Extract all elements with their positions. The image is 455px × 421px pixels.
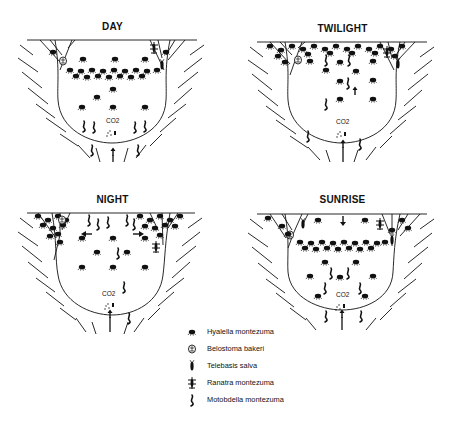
panel-twilight: TWILIGHT CO2	[230, 0, 455, 200]
legend-label: Telebasis salva	[207, 361, 257, 370]
legend-item: Belostoma bakeri	[185, 340, 385, 357]
legend-label: Belostoma bakeri	[207, 344, 264, 353]
panel-day: DAY CO2	[0, 0, 225, 200]
damselfly-larva-icon	[185, 359, 199, 373]
legend-label: Ranatra montezuma	[207, 378, 274, 387]
pond-diagram-sunrise	[230, 190, 455, 330]
water-bug-icon	[185, 342, 199, 356]
amphipod-icon	[185, 325, 199, 339]
co2-label: CO2	[336, 118, 349, 125]
legend-label: Motobdella montezuma	[207, 395, 284, 404]
pond-diagram-twilight	[230, 0, 455, 200]
legend-item: Ranatra montezuma	[185, 374, 385, 391]
legend-item: Motobdella montezuma	[185, 391, 385, 408]
pond-diagram-day	[0, 0, 225, 200]
co2-label: CO2	[102, 290, 115, 297]
legend-item: Telebasis salva	[185, 357, 385, 374]
co2-label: CO2	[336, 291, 349, 298]
legend-item: Hyalella montezuma	[185, 323, 385, 340]
co2-label: CO2	[106, 117, 119, 124]
leech-icon	[185, 393, 199, 407]
legend-label: Hyalella montezuma	[207, 327, 274, 336]
legend: Hyalella montezuma Belostoma bakeri Tele…	[185, 323, 385, 408]
water-scorpion-icon	[185, 376, 199, 390]
